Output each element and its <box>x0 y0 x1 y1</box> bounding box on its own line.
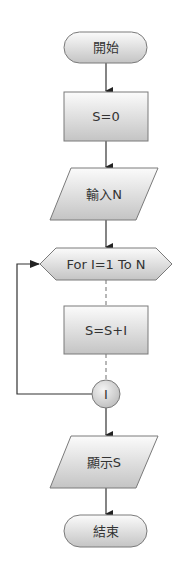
body-label: S=S+I <box>85 323 127 338</box>
loop-label: For I=1 To N <box>66 257 145 272</box>
start-label: 開始 <box>93 40 119 55</box>
init-label: S=0 <box>92 109 119 124</box>
end-label: 結束 <box>93 524 119 539</box>
output-label: 顯示S <box>87 455 121 470</box>
input-label: 輸入N <box>86 187 122 202</box>
end-terminator: 結束 <box>64 515 147 547</box>
start-terminator: 開始 <box>64 32 147 63</box>
init-process: S=0 <box>64 92 148 141</box>
input-parallelogram: 輸入N <box>50 168 158 220</box>
next-label: I <box>104 387 108 402</box>
flowchart: 開始 S=0 輸入N For I=1 To N S=S+I I 顯示S 結束 <box>0 0 182 577</box>
loop-hexagon: For I=1 To N <box>40 248 172 280</box>
next-connector: I <box>92 380 120 408</box>
body-process: S=S+I <box>64 306 148 354</box>
output-parallelogram: 顯示S <box>50 436 158 488</box>
